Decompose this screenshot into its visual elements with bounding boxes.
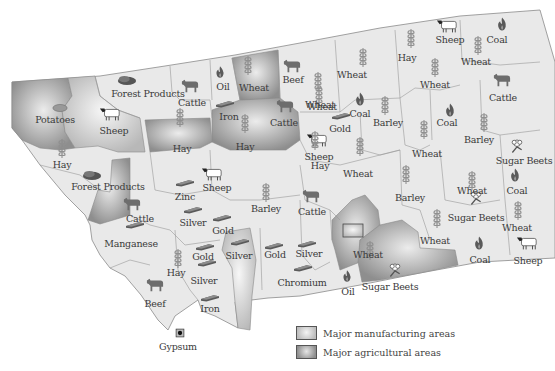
- map-label-gold: Gold: [192, 252, 214, 262]
- map-label-potatoes: Potatoes: [35, 115, 75, 125]
- map-label-hay: Hay: [311, 161, 330, 171]
- map-label-wheat: Wheat: [239, 83, 269, 93]
- map-label-forest-products: Forest Products: [111, 89, 185, 99]
- map-label-wheat: Wheat: [343, 169, 373, 179]
- map-label-coal: Coal: [487, 35, 508, 45]
- map-label-gold: Gold: [212, 226, 234, 236]
- map-label-forest-products: Forest Products: [71, 182, 145, 192]
- map-label-silver: Silver: [296, 249, 323, 259]
- map-label-chromium: Chromium: [277, 278, 326, 288]
- map-label-gold: Gold: [329, 124, 351, 134]
- map-label-wheat: Wheat: [502, 223, 532, 233]
- map-label-cattle: Cattle: [489, 93, 517, 103]
- map-label-hay: Hay: [173, 144, 192, 154]
- map-label-hay: Hay: [398, 53, 417, 63]
- map-label-hay: Hay: [53, 160, 72, 170]
- agricultural-swatch: [296, 345, 317, 359]
- map-label-sheep: Sheep: [436, 35, 465, 45]
- map-label-silver: Silver: [226, 251, 253, 261]
- map-label-hay: Hay: [236, 142, 255, 152]
- map-label-oil: Oil: [341, 287, 354, 297]
- map-label-coal: Coal: [470, 255, 491, 265]
- map-label-coal: Coal: [350, 109, 371, 119]
- map-label-zinc: Zinc: [175, 192, 195, 202]
- legend-item-manufacturing: Major manufacturing areas: [296, 326, 455, 340]
- map-label-gypsum: Gypsum: [159, 342, 197, 352]
- map-label-wheat: Wheat: [420, 80, 450, 90]
- map-label-cattle: Cattle: [270, 118, 298, 128]
- map-label-cattle: Cattle: [178, 98, 206, 108]
- map-label-iron: Iron: [200, 304, 219, 314]
- map-label-oil: Oil: [216, 82, 229, 92]
- map-label-wheat: Wheat: [412, 149, 442, 159]
- map-label-wheat: Wheat: [305, 100, 335, 110]
- map-label-wheat: Wheat: [420, 236, 450, 246]
- map-label-cattle: Cattle: [126, 214, 154, 224]
- map-label-barley: Barley: [464, 135, 494, 145]
- map-label-barley: Barley: [251, 204, 281, 214]
- map-label-gold: Gold: [264, 250, 286, 260]
- legend-label: Major agricultural areas: [323, 347, 441, 358]
- map-label-coal: Coal: [437, 118, 458, 128]
- map-label-barley: Barley: [395, 193, 425, 203]
- map-label-wheat: Wheat: [461, 57, 491, 67]
- map-label-barley: Barley: [373, 118, 403, 128]
- map-label-silver: Silver: [180, 218, 207, 228]
- map-label-sugar-beets: Sugar Beets: [362, 282, 419, 292]
- map-label-iron: Iron: [219, 112, 238, 122]
- map-label-sheep: Sheep: [203, 183, 232, 193]
- manufacturing-swatch: [296, 326, 317, 340]
- map-label-sheep: Sheep: [514, 256, 543, 266]
- map-label-beef: Beef: [145, 299, 166, 309]
- legend: Major manufacturing areas Major agricult…: [296, 326, 455, 364]
- map-label-silver: Silver: [191, 276, 218, 286]
- map-label-manganese: Manganese: [104, 239, 158, 249]
- map-label-coal: Coal: [507, 186, 528, 196]
- gypsum-icon: [176, 329, 184, 337]
- map-label-wheat: Wheat: [337, 70, 367, 80]
- map-label-sheep: Sheep: [100, 126, 129, 136]
- map-label-beef: Beef: [283, 75, 304, 85]
- map-label-sugar-beets: Sugar Beets: [496, 156, 553, 166]
- potato-icon: [53, 104, 67, 111]
- map-label-wheat: Wheat: [353, 250, 383, 260]
- legend-label: Major manufacturing areas: [323, 328, 455, 339]
- map-label-cattle: Cattle: [298, 207, 326, 217]
- map-label-hay: Hay: [167, 268, 186, 278]
- legend-item-agricultural: Major agricultural areas: [296, 345, 455, 359]
- map-label-wheat: Wheat: [457, 186, 487, 196]
- billings-manufacturing-box: [343, 224, 363, 237]
- map-label-sugar-beets: Sugar Beets: [448, 213, 505, 223]
